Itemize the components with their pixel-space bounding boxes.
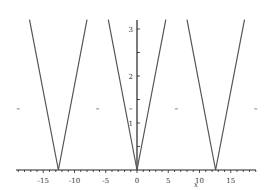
x-ticks: -15-10-5051015 [18,170,256,185]
x-tick-label: 15 [226,177,235,185]
curve-left [30,20,88,170]
x-axis-label: x [194,181,198,189]
y-tick-label: 3 [129,26,133,34]
chart: -15-10-5051015 123 x [0,0,271,190]
x-tick-label: -5 [102,177,109,185]
x-tick-label: 0 [135,177,139,185]
x-tick-label: -10 [69,177,80,185]
x-tick-label: -15 [38,177,49,185]
y-ticks: 123 [129,26,140,147]
y-tick-label: 2 [129,73,133,81]
curve-right [187,20,245,170]
x-tick-label: 5 [166,177,170,185]
